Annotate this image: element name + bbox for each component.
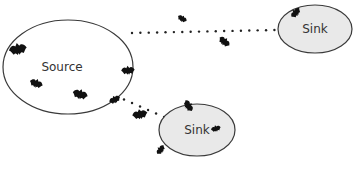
bat-icon — [217, 34, 232, 49]
sink-bottom-node: Sink — [159, 104, 235, 156]
sink-bottom-label: Sink — [184, 123, 210, 137]
source-label: Source — [41, 60, 82, 74]
bat-icon — [176, 13, 188, 24]
source-sink-diagram: Source Sink Sink — [0, 0, 354, 174]
bat-icon — [154, 143, 166, 156]
sink-top-node: Sink — [278, 5, 352, 53]
dotted-edge-sink-top — [131, 29, 276, 34]
bat-icon — [131, 108, 148, 121]
sink-top-label: Sink — [302, 22, 328, 36]
